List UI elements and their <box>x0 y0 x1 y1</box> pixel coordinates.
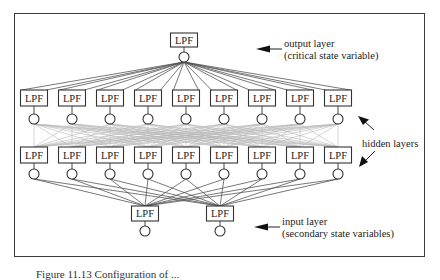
lpf-label: LPF <box>25 150 43 161</box>
connection-lines <box>22 62 351 206</box>
neuron-circle-icon <box>219 169 229 179</box>
neuron-circle-icon <box>181 114 191 124</box>
neuron-circle-icon <box>215 226 225 236</box>
hidden-1-node: LPF <box>135 90 162 124</box>
output-layer-subtitle: (critical state variable) <box>284 50 378 62</box>
connection-line <box>145 179 186 206</box>
lpf-label: LPF <box>101 150 119 161</box>
hidden-2-node: LPF <box>173 147 200 179</box>
input-node: LPF <box>207 206 234 236</box>
lpf-label: LPF <box>329 150 347 161</box>
input-layer-title: input layer <box>282 216 394 228</box>
connection-line <box>184 62 351 90</box>
output-node: LPF <box>171 33 198 62</box>
hidden-2-node: LPF <box>59 147 86 179</box>
neuron-circle-icon <box>257 114 267 124</box>
connection-line <box>72 179 220 206</box>
neuron-circle-icon <box>295 114 305 124</box>
input-layer-subtitle: (secondary state variables) <box>282 228 394 240</box>
hidden-1-node: LPF <box>59 90 86 124</box>
connection-line <box>72 179 145 206</box>
lpf-label: LPF <box>63 150 81 161</box>
input-node: LPF <box>132 206 159 236</box>
connection-line <box>184 62 326 90</box>
lpf-label: LPF <box>139 93 157 104</box>
hidden-2-node: LPF <box>97 147 124 179</box>
lpf-label: LPF <box>253 150 271 161</box>
output-layer-arrow-icon <box>256 46 282 53</box>
hidden-2-node: LPF <box>21 147 48 179</box>
output-layer-label: output layer (critical state variable) <box>284 38 378 62</box>
connection-line <box>220 179 300 206</box>
hidden-layer-down-arrow-icon <box>359 151 375 167</box>
hidden-2-node: LPF <box>325 147 352 179</box>
lpf-label: LPF <box>215 93 233 104</box>
hidden-1-node: LPF <box>249 90 276 124</box>
neuron-circle-icon <box>140 226 150 236</box>
connection-line <box>98 62 185 90</box>
lpf-label: LPF <box>329 93 347 104</box>
lpf-label: LPF <box>101 93 119 104</box>
lpf-label: LPF <box>177 150 195 161</box>
hidden-2-node: LPF <box>249 147 276 179</box>
neuron-circle-icon <box>105 114 115 124</box>
lpf-label: LPF <box>175 35 193 46</box>
neuron-circle-icon <box>333 169 343 179</box>
neuron-circle-icon <box>181 169 191 179</box>
hidden-1-node: LPF <box>21 90 48 124</box>
figure-caption: Figure 11.13 Configuration of ... <box>36 268 179 280</box>
lpf-label: LPF <box>253 93 271 104</box>
hidden-layers-label: hidden layers <box>362 138 418 150</box>
hidden-2-node: LPF <box>211 147 238 179</box>
neuron-circle-icon <box>29 169 39 179</box>
neuron-circle-icon <box>219 114 229 124</box>
connection-line <box>145 179 338 206</box>
lpf-label: LPF <box>139 150 157 161</box>
connection-line <box>184 62 250 90</box>
input-layer-arrow-icon <box>254 224 280 231</box>
hidden-1-node: LPF <box>325 90 352 124</box>
connection-line <box>85 62 185 90</box>
neuron-circle-icon <box>257 169 267 179</box>
hidden-2-node: LPF <box>287 147 314 179</box>
hidden-layer-up-arrow-icon <box>358 116 374 130</box>
lpf-label: LPF <box>291 150 309 161</box>
connection-line <box>184 62 288 90</box>
neuron-circle-icon <box>143 169 153 179</box>
lpf-label: LPF <box>136 208 154 219</box>
lpf-label: LPF <box>211 208 229 219</box>
hidden-2-node: LPF <box>135 147 162 179</box>
lpf-label: LPF <box>63 93 81 104</box>
lpf-label: LPF <box>291 93 309 104</box>
hidden-1-node: LPF <box>97 90 124 124</box>
neuron-circle-icon <box>295 169 305 179</box>
hidden-1-node: LPF <box>173 90 200 124</box>
input-layer-label: input layer (secondary state variables) <box>282 216 394 240</box>
connection-line <box>145 179 300 206</box>
hidden-1-node: LPF <box>287 90 314 124</box>
output-layer-title: output layer <box>284 38 378 50</box>
lpf-label: LPF <box>215 150 233 161</box>
lpf-label: LPF <box>177 93 195 104</box>
neuron-circle-icon <box>333 114 343 124</box>
lpf-label: LPF <box>25 93 43 104</box>
neuron-circle-icon <box>29 114 39 124</box>
neuron-circle-icon <box>67 169 77 179</box>
connection-line <box>145 179 224 206</box>
connection-line <box>60 62 185 90</box>
connection-line <box>47 62 185 90</box>
neuron-circle-icon <box>67 114 77 124</box>
neuron-circle-icon <box>105 169 115 179</box>
neuron-circle-icon <box>179 52 189 62</box>
hidden-1-node: LPF <box>211 90 238 124</box>
neuron-circle-icon <box>143 114 153 124</box>
